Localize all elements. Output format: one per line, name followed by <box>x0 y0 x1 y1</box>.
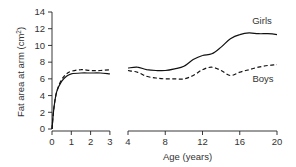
boys-label: Boys <box>252 73 273 84</box>
x-tick-label: 4 <box>125 136 130 147</box>
boys-line-segment-1 <box>52 70 110 129</box>
x-axis-label: Age (years) <box>163 151 212 162</box>
y-tick-label: 0 <box>40 123 45 134</box>
x-tick-label: 16 <box>234 136 245 147</box>
y-tick-label: 4 <box>40 90 45 101</box>
y-tick-label: 6 <box>40 73 45 84</box>
fat-area-chart: 02468101214012348121620 Girls Boys Age (… <box>0 0 296 167</box>
y-tick-label: 2 <box>40 107 45 118</box>
x-tick-label: 1 <box>69 136 74 147</box>
y-tick-label: 14 <box>34 6 45 17</box>
girls-line-segment-2 <box>128 33 277 71</box>
y-tick-label: 8 <box>40 56 45 67</box>
x-tick-label: 20 <box>272 136 283 147</box>
x-tick-label: 3 <box>107 136 112 147</box>
x-tick-label: 2 <box>88 136 93 147</box>
axes: 02468101214012348121620 <box>34 6 282 147</box>
y-tick-label: 12 <box>34 23 45 34</box>
x-tick-label: 0 <box>49 136 54 147</box>
x-tick-label: 12 <box>197 136 208 147</box>
girls-label: Girls <box>252 15 272 26</box>
x-tick-label: 8 <box>163 136 168 147</box>
y-tick-label: 10 <box>34 40 45 51</box>
series-lines <box>52 33 277 129</box>
y-axis-label: Fat area at arm (cm2) <box>15 27 26 117</box>
